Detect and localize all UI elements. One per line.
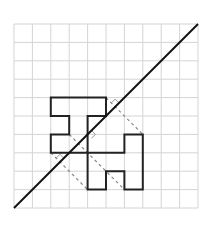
reflection-diagram <box>0 0 207 229</box>
reflected-shape <box>88 134 143 189</box>
perpendicular-dashed-lines <box>51 98 143 190</box>
dashed-line <box>69 134 124 189</box>
shapes <box>51 98 143 190</box>
right-angle-icon <box>56 154 64 158</box>
right-angle-icon <box>111 99 119 103</box>
